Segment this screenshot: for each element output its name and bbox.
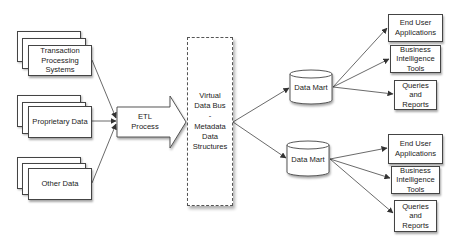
output-business-intelligence-tools-bottom: Business Intelligence Tools — [391, 166, 440, 194]
edge-dm1-bi — [333, 59, 389, 87]
edge-other-etl — [92, 124, 116, 183]
datamart-2-label: Data Mart — [287, 155, 329, 164]
output-business-intelligence-tools-top: Business Intelligence Tools — [390, 45, 441, 73]
datamart-1-label: Data Mart — [290, 83, 332, 92]
output-queries-and-reports-top: Queries and Reports — [394, 80, 437, 110]
source-label: Other Data — [41, 179, 78, 189]
edge-bus-datamart2 — [233, 122, 286, 158]
virtual-data-bus: Virtual Data Bus - Metadata Data Structu… — [187, 37, 233, 206]
edge-dm2-enduser — [330, 148, 387, 159]
output-end-user-applications-bottom: End User Applications — [388, 134, 443, 164]
edge-dm2-bi — [330, 159, 390, 178]
source-proprietary-data: Proprietary Data — [28, 106, 92, 138]
edge-dm2-queries — [330, 159, 393, 213]
etl-text: ETL Process — [131, 112, 158, 131]
output-queries-and-reports-bottom: Queries and Reports — [394, 200, 437, 232]
output-end-user-applications-top: End User Applications — [388, 14, 443, 42]
edge-dm1-enduser — [333, 28, 387, 87]
source-transaction-processing-systems: Transaction Processing Systems — [28, 45, 92, 76]
source-label: Proprietary Data — [32, 117, 87, 127]
source-label: Transaction Processing Systems — [40, 46, 79, 75]
output-label: Business Intelligence Tools — [396, 166, 434, 195]
source-other-data: Other Data — [28, 168, 92, 200]
output-label: Queries and Reports — [402, 202, 429, 231]
output-label: End User Applications — [395, 139, 436, 158]
bus-label: Virtual Data Bus - Metadata Data Structu… — [193, 91, 228, 152]
output-label: Queries and Reports — [402, 81, 429, 110]
edge-bus-datamart1 — [233, 88, 289, 122]
edge-dm1-queries — [333, 87, 393, 94]
output-label: End User Applications — [395, 18, 436, 37]
edge-tps-etl — [92, 60, 116, 118]
output-label: Business Intelligence Tools — [396, 45, 434, 74]
etl-process-label: ETL Process — [117, 112, 173, 132]
